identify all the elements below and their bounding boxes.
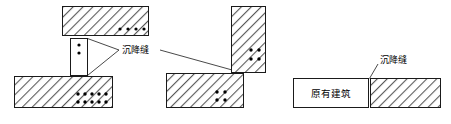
settlement-joint-label-left: 沉降缝 [122, 44, 149, 55]
diagram-canvas: 沉降缝 原有建筑 [0, 0, 451, 124]
new-building-block [371, 79, 441, 108]
right-leader-line [370, 64, 379, 79]
settlement-joint-diagram: 沉降缝 原有建筑 [0, 0, 451, 124]
existing-building-label: 原有建筑 [311, 88, 351, 99]
middle-vertical-wall-block [232, 7, 266, 73]
settlement-joint-label-right: 沉降缝 [380, 54, 407, 65]
middle-group [167, 7, 266, 108]
left-top-wall-block [63, 7, 149, 36]
left-to-middle-leader-line [160, 50, 243, 73]
right-group: 原有建筑 沉降缝 [294, 54, 441, 108]
left-wedge-leader-line [88, 39, 120, 76]
middle-horizontal-wall-block [167, 74, 244, 108]
